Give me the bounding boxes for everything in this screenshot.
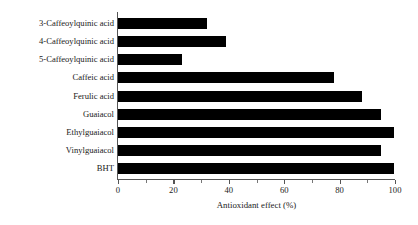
bar-fill	[118, 72, 334, 83]
x-tick-label: 60	[280, 185, 289, 196]
x-tick-minor	[201, 180, 202, 183]
category-label: 3-Caffeoylquinic acid	[1, 18, 114, 29]
category-label: 5-Caffeoylquinic acid	[1, 54, 114, 65]
bar-fill	[118, 145, 381, 156]
bar-fill	[118, 36, 226, 47]
bar-vinylguaiacol	[118, 145, 381, 156]
category-label: Ferulic acid	[1, 91, 114, 102]
category-label: Caffeic acid	[1, 72, 114, 83]
bar-guaiacol	[118, 109, 381, 120]
x-tick-label: 20	[169, 185, 178, 196]
x-tick-label: 0	[116, 185, 120, 196]
bar-5-caffeoylquinic-acid	[118, 54, 182, 65]
category-label: BHT	[1, 163, 114, 174]
x-tick-major	[229, 180, 230, 184]
x-tick-label: 80	[335, 185, 344, 196]
plot-area	[118, 14, 395, 178]
bar-fill	[118, 18, 207, 29]
bar-fill	[118, 54, 182, 65]
category-label: Ethylguaiacol	[1, 127, 114, 138]
x-axis-title: Antioxidant effect (%)	[118, 200, 395, 210]
bar-4-caffeoylquinic-acid	[118, 36, 226, 47]
x-tick-minor	[257, 180, 258, 183]
bar-ferulic-acid	[118, 91, 362, 102]
category-label: Guaiacol	[1, 109, 114, 120]
antioxidant-effect-bar-chart: 3-Caffeoylquinic acid4-Caffeoylquinic ac…	[0, 0, 418, 225]
category-label: Vinylguaiacol	[1, 145, 114, 156]
x-tick-major	[340, 180, 341, 184]
bar-bht	[118, 163, 394, 174]
x-tick-major	[118, 180, 119, 184]
x-tick-label: 100	[389, 185, 402, 196]
bar-fill	[118, 91, 362, 102]
x-tick-minor	[312, 180, 313, 183]
bar-fill	[118, 163, 394, 174]
x-tick-label: 40	[225, 185, 234, 196]
bar-3-caffeoylquinic-acid	[118, 18, 207, 29]
bar-ethylguaiacol	[118, 127, 394, 138]
x-tick-major	[173, 180, 174, 184]
category-label: 4-Caffeoylquinic acid	[1, 36, 114, 47]
x-tick-major	[284, 180, 285, 184]
x-tick-minor	[367, 180, 368, 183]
bar-fill	[118, 127, 394, 138]
x-tick-major	[395, 180, 396, 184]
category-axis-labels: 3-Caffeoylquinic acid4-Caffeoylquinic ac…	[0, 14, 114, 178]
x-tick-minor	[146, 180, 147, 183]
bar-caffeic-acid	[118, 72, 334, 83]
bar-fill	[118, 109, 381, 120]
